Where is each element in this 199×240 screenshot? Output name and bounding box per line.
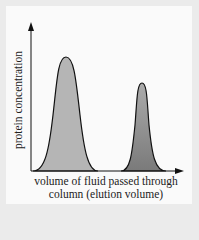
x-axis-label-line1: volume of fluid passed through — [28, 175, 184, 188]
y-axis-arrow-icon — [28, 22, 34, 31]
x-axis-arrow-icon — [175, 168, 184, 174]
y-axis-label: protein concentration — [12, 51, 24, 149]
y-axis-label-box: protein concentration — [7, 40, 29, 160]
peak-1 — [33, 57, 98, 171]
x-axis-label: volume of fluid passed through column (e… — [28, 175, 184, 201]
x-axis-label-line2: column (elution volume) — [28, 188, 184, 201]
peak-2 — [121, 83, 166, 171]
